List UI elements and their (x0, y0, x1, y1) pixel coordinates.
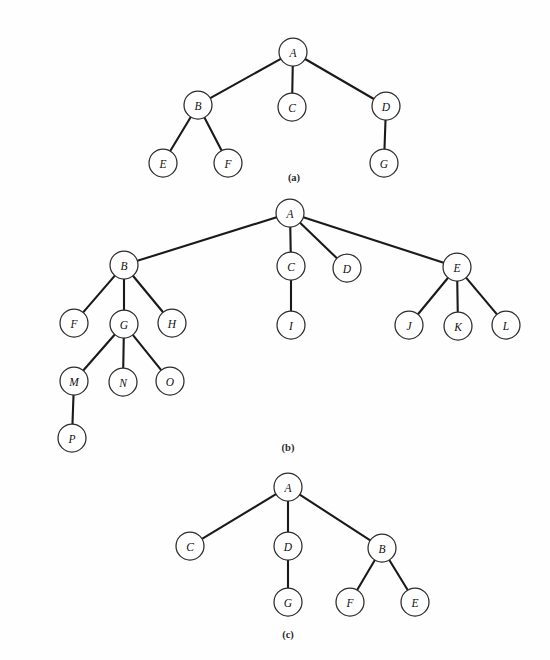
node-label: G (380, 158, 389, 170)
node-label: B (120, 260, 127, 272)
node-label: F (69, 318, 78, 330)
node-label: D (381, 101, 391, 113)
tree-node[interactable]: O (156, 367, 184, 395)
node-label: C (186, 541, 194, 553)
panel-caption: (a) (288, 172, 301, 184)
tree-node[interactable]: C (176, 532, 204, 560)
tree-edge (466, 278, 497, 315)
node-label: L (502, 320, 509, 332)
node-label: B (378, 543, 385, 555)
tree-edge (303, 217, 443, 262)
tree-edge (202, 494, 276, 539)
tree-edge (72, 395, 73, 424)
tree-node[interactable]: D (333, 254, 361, 282)
tree-edge (170, 117, 191, 151)
tree-node[interactable]: C (278, 93, 306, 121)
tree-edge (123, 338, 124, 368)
tree-node[interactable]: B (368, 534, 396, 562)
panel-nodes-panel-c: ACDBGFE (176, 473, 429, 616)
node-label: N (118, 377, 128, 389)
tree-node[interactable]: L (492, 311, 520, 339)
panel-caption: (b) (282, 442, 295, 454)
tree-node[interactable]: D (274, 532, 302, 560)
node-label: E (158, 158, 166, 170)
node-label: K (453, 321, 463, 333)
tree-node[interactable]: I (277, 311, 305, 339)
node-label: H (167, 318, 177, 330)
panel-nodes-panel-b: ABCDEFGHIJKLMNOP (58, 199, 520, 452)
node-label: F (345, 597, 354, 609)
tree-node[interactable]: P (58, 424, 86, 452)
tree-edge (389, 560, 407, 590)
node-label: P (67, 433, 75, 445)
tree-edge (300, 495, 371, 541)
tree-node[interactable]: E (401, 588, 429, 616)
tree-node[interactable]: G (110, 310, 138, 338)
tree-edge (83, 335, 115, 371)
tree-node[interactable]: G (274, 588, 302, 616)
node-label: C (288, 102, 296, 114)
tree-edge (133, 276, 163, 312)
tree-diagram-canvas: ABCDEFGABCDEFGHIJKLMNOPACDBGFE (a)(b)(c) (0, 0, 550, 660)
tree-edge (457, 281, 458, 312)
node-label: M (68, 376, 80, 388)
tree-node[interactable]: M (60, 367, 88, 395)
tree-edge (133, 335, 161, 370)
tree-node[interactable]: B (110, 251, 138, 279)
tree-node[interactable]: A (279, 38, 307, 66)
tree-edge (357, 560, 375, 590)
node-label: G (284, 597, 293, 609)
tree-node[interactable]: E (443, 253, 471, 281)
tree-edge (300, 223, 337, 259)
node-label: F (223, 158, 232, 170)
panel-caption: (c) (282, 629, 294, 641)
node-label: D (283, 541, 293, 553)
tree-node[interactable]: A (274, 473, 302, 501)
tree-node[interactable]: K (444, 312, 472, 340)
node-label: O (166, 376, 175, 388)
tree-node[interactable]: C (277, 252, 305, 280)
panel-nodes-panel-a: ABCDEFG (149, 38, 400, 177)
node-label: E (452, 262, 460, 274)
node-label: A (283, 482, 292, 494)
node-label: J (406, 320, 412, 332)
tree-node[interactable]: J (395, 311, 423, 339)
node-label: G (120, 319, 129, 331)
node-label: C (287, 261, 295, 273)
tree-edge (418, 278, 448, 314)
tree-node[interactable]: E (149, 149, 177, 177)
tree-edge (292, 66, 293, 93)
node-label: E (410, 597, 418, 609)
tree-edge (137, 217, 276, 261)
tree-edge (204, 117, 221, 150)
node-label: A (288, 47, 297, 59)
tree-edge (210, 59, 281, 98)
tree-edge (305, 59, 374, 99)
tree-node[interactable]: G (370, 149, 398, 177)
tree-node[interactable]: F (60, 309, 88, 337)
node-label: A (285, 208, 294, 220)
tree-node[interactable]: N (109, 368, 137, 396)
tree-edge (384, 120, 385, 149)
tree-node[interactable]: B (184, 91, 212, 119)
tree-node[interactable]: F (214, 149, 242, 177)
tree-node[interactable]: A (276, 199, 304, 227)
tree-node[interactable]: F (336, 588, 364, 616)
tree-node[interactable]: H (158, 309, 186, 337)
tree-edge (83, 276, 115, 313)
figure-root: ABCDEFGABCDEFGHIJKLMNOPACDBGFE (a)(b)(c) (0, 0, 550, 660)
tree-node[interactable]: D (372, 92, 400, 120)
node-label: B (194, 100, 201, 112)
node-label: D (342, 263, 352, 275)
